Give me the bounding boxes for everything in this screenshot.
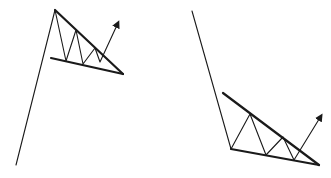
figure-right — [192, 11, 321, 165]
pattern-diagram — [0, 0, 331, 178]
upper-trendline — [223, 93, 319, 165]
pole-line — [192, 11, 231, 149]
zigzag-price-path — [231, 114, 321, 160]
lower-trendline — [231, 149, 319, 165]
pole-line — [16, 10, 55, 165]
figure-left — [16, 10, 123, 165]
upper-trendline — [55, 10, 123, 74]
lower-trendline — [51, 58, 123, 74]
